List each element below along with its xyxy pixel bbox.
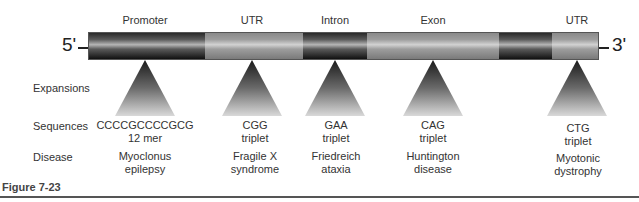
five-prime-label: 5' [62, 34, 76, 56]
bottom-rule [0, 196, 639, 198]
disease-text: Huntington [378, 150, 488, 163]
sequence-text: GAA [281, 119, 391, 132]
five-prime-line [78, 47, 88, 49]
disease-cell-utr-3: Myotonic dystrophy [523, 152, 633, 178]
bar-segment-intron [303, 33, 367, 59]
disease-text: Friedreich [281, 150, 391, 163]
sequence-text: CCCCGCCCCGCG [90, 119, 200, 132]
bar-segment-dark-4 [499, 33, 552, 59]
disease-cell-exon: Huntington disease [378, 150, 488, 176]
bar-segment-promoter [89, 33, 205, 59]
bar-segment-exon [367, 33, 499, 59]
sequence-cell-promoter: CCCCGCCCCGCG 12 mer [90, 119, 200, 145]
three-prime-line [599, 47, 609, 49]
disease-cell-promoter: Myoclonus epilepsy [90, 150, 200, 176]
disease-subtext: ataxia [281, 163, 391, 176]
sequence-cell-intron: GAA triplet [281, 119, 391, 145]
sequence-subtext: triplet [378, 132, 488, 145]
sequence-text: CAG [378, 119, 488, 132]
disease-cell-intron: Friedreich ataxia [281, 150, 391, 176]
expansion-triangle-utr-3 [547, 60, 607, 116]
bar-segment-utr-5 [205, 33, 304, 59]
sequence-subtext: 12 mer [90, 132, 200, 145]
sequence-subtext: triplet [523, 135, 633, 148]
sequence-subtext: triplet [281, 132, 391, 145]
sequence-cell-utr-3: CTG triplet [523, 122, 633, 148]
region-label-utr-3: UTR [537, 14, 617, 26]
disease-subtext: epilepsy [90, 163, 200, 176]
row-label-expansions: Expansions [33, 82, 90, 94]
sequence-text: CTG [523, 122, 633, 135]
expansion-triangle-promoter [115, 60, 175, 116]
expansion-triangle-exon [403, 60, 463, 116]
region-label-promoter: Promoter [105, 14, 185, 26]
disease-subtext: disease [378, 163, 488, 176]
sequence-cell-exon: CAG triplet [378, 119, 488, 145]
figure-caption: Figure 7-23 [2, 181, 61, 193]
gene-bar [88, 32, 599, 60]
expansion-triangle-utr-5 [222, 60, 282, 116]
bar-segment-utr-3 [552, 33, 598, 59]
region-label-intron: Intron [295, 14, 375, 26]
region-label-exon: Exon [393, 14, 473, 26]
three-prime-label: 3' [612, 34, 626, 56]
disease-text: Myoclonus [90, 150, 200, 163]
row-label-sequences: Sequences [33, 120, 88, 132]
disease-subtext: dystrophy [523, 165, 633, 178]
disease-text: Myotonic [523, 152, 633, 165]
expansion-triangle-intron [305, 60, 365, 116]
row-label-disease: Disease [33, 151, 73, 163]
region-label-utr-5: UTR [212, 14, 292, 26]
